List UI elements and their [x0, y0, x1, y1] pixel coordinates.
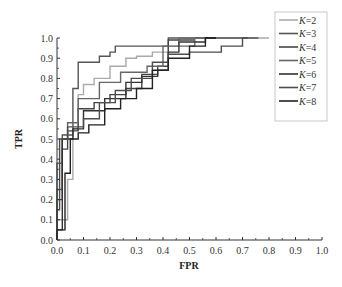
- x-tick-label: 0.3: [130, 245, 143, 256]
- y-tick-label: 0.7: [41, 93, 54, 104]
- y-tick-label: 0.3: [41, 174, 54, 185]
- y-tick-label: 0.9: [41, 53, 54, 64]
- legend-label: K=2: [298, 15, 316, 26]
- series-line-k2: [57, 38, 269, 240]
- x-tick-label: 0.6: [210, 245, 223, 256]
- y-tick-label: 0.2: [41, 194, 54, 205]
- x-tick-label: 0.9: [289, 245, 302, 256]
- legend-label: K=7: [298, 82, 316, 93]
- series-line-k7: [57, 38, 248, 240]
- legend-label: K=8: [298, 96, 316, 107]
- x-tick-label: 0.1: [77, 245, 90, 256]
- y-axis-title: TPR: [13, 128, 24, 149]
- x-axis-title: FPR: [179, 260, 199, 271]
- legend-label: K=5: [298, 55, 316, 66]
- y-tick-label: 0.1: [41, 214, 54, 225]
- roc-chart: 0.00.10.20.30.40.50.60.70.80.91.0 0.00.1…: [0, 0, 342, 287]
- series-line-k5: [57, 38, 216, 240]
- y-tick-label: 1.0: [41, 33, 54, 44]
- x-tick-label: 0.7: [236, 245, 249, 256]
- y-tick-label: 0.0: [41, 235, 54, 246]
- x-tick-label: 1.0: [316, 245, 329, 256]
- x-tick-label: 0.4: [157, 245, 170, 256]
- legend-label: K=3: [298, 28, 316, 39]
- y-tick-label: 0.8: [41, 73, 54, 84]
- series-line-k8: [57, 38, 216, 240]
- x-tick-label: 0.5: [183, 245, 196, 256]
- legend-label: K=6: [298, 69, 316, 80]
- y-tick-label: 0.5: [41, 134, 54, 145]
- plot-lines: [57, 38, 269, 240]
- x-tick-label: 0.8: [263, 245, 276, 256]
- legend-label: K=4: [298, 42, 316, 53]
- x-tick-label: 0.2: [104, 245, 117, 256]
- y-tick-label: 0.6: [41, 113, 54, 124]
- y-tick-label: 0.4: [41, 154, 54, 165]
- x-tick-label: 0.0: [51, 245, 64, 256]
- legend: K=2K=3K=4K=5K=6K=7K=8: [275, 12, 327, 121]
- series-line-k6: [57, 38, 216, 240]
